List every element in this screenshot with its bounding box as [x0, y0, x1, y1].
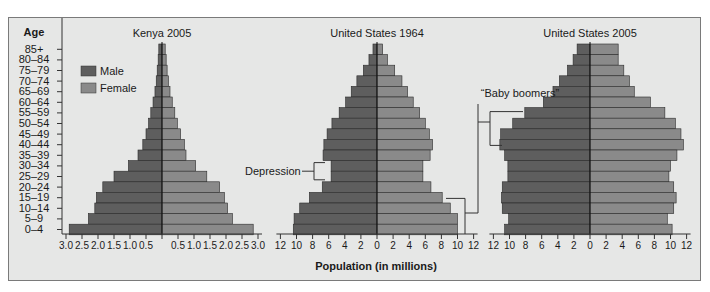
- y-axis-title: Age: [24, 26, 45, 38]
- bar-male: [69, 224, 162, 235]
- legend-swatch-female: [81, 83, 96, 93]
- bar-male: [294, 214, 377, 225]
- x-axis-label: Population (in millions): [315, 260, 437, 272]
- bar-female: [590, 203, 674, 214]
- bar-male: [573, 55, 590, 66]
- bar-male: [509, 214, 590, 225]
- bar-female: [590, 129, 681, 140]
- x-tick-label: 2: [358, 240, 364, 251]
- bar-male: [309, 192, 377, 203]
- bar-male: [322, 182, 377, 193]
- bar-female: [590, 65, 624, 76]
- bar-male: [114, 171, 162, 182]
- bar-male: [153, 97, 162, 108]
- bar-female: [162, 86, 170, 97]
- bar-male: [501, 129, 590, 140]
- x-tick-label: 12: [488, 240, 500, 251]
- bar-female: [162, 224, 253, 235]
- age-label: 0–4: [25, 223, 43, 235]
- bar-male: [351, 86, 377, 97]
- bar-female: [377, 150, 430, 161]
- bar-male: [369, 55, 377, 66]
- bar-male: [95, 203, 162, 214]
- bar-female: [162, 118, 177, 129]
- bar-male: [363, 65, 377, 76]
- bar-female: [162, 129, 181, 140]
- bar-male: [346, 97, 377, 108]
- bar-male: [155, 86, 162, 97]
- x-tick-label: 6: [326, 240, 332, 251]
- bar-male: [332, 118, 377, 129]
- x-tick-label: 2.5: [75, 240, 89, 251]
- x-tick-label: 10: [291, 240, 303, 251]
- x-tick-label: 8: [652, 240, 658, 251]
- depression-label: Depression: [245, 165, 301, 177]
- bar-female: [162, 214, 232, 225]
- bar-female: [590, 192, 676, 203]
- bar-male: [502, 203, 590, 214]
- bar-female: [162, 192, 224, 203]
- x-tick-label: 8: [439, 240, 445, 251]
- bar-female: [590, 44, 618, 55]
- x-tick-label: 4: [406, 240, 412, 251]
- bar-female: [377, 139, 433, 150]
- bar-female: [162, 97, 172, 108]
- bar-female: [162, 76, 168, 87]
- bar-female: [162, 182, 220, 193]
- bar-female: [377, 44, 383, 55]
- bar-female: [377, 224, 458, 235]
- bar-female: [377, 129, 429, 140]
- bar-male: [128, 161, 162, 172]
- bar-male: [324, 139, 377, 150]
- x-tick-label: 0.5: [171, 240, 185, 251]
- bar-male: [577, 44, 590, 55]
- x-tick-label: 12: [681, 240, 693, 251]
- bar-male: [505, 224, 590, 235]
- bar-male: [323, 150, 377, 161]
- bar-female: [377, 86, 408, 97]
- bar-male: [103, 182, 162, 193]
- x-tick-label: 8: [310, 240, 316, 251]
- panel-title: United States 2005: [543, 27, 637, 39]
- bar-female: [377, 214, 458, 225]
- bar-male: [138, 150, 162, 161]
- x-tick-label: 2.0: [91, 240, 105, 251]
- bar-male: [339, 108, 377, 119]
- bar-female: [590, 224, 672, 235]
- bar-male: [88, 214, 162, 225]
- bar-female: [590, 118, 675, 129]
- x-tick-label: 2.5: [235, 240, 249, 251]
- bar-female: [162, 139, 184, 150]
- bar-male: [559, 76, 590, 87]
- bar-male: [149, 118, 162, 129]
- x-tick-label: 4: [342, 240, 348, 251]
- bar-male: [300, 203, 377, 214]
- bar-female: [377, 55, 387, 66]
- pyramid-0: Kenya 20053.02.52.01.51.00.50.51.01.52.0…: [59, 27, 265, 251]
- bar-female: [162, 171, 207, 182]
- bar-female: [590, 76, 629, 87]
- bar-male: [293, 224, 377, 235]
- pyramid-panels: Kenya 20053.02.52.01.51.00.50.51.01.52.0…: [59, 27, 693, 251]
- x-tick-label: 3.0: [59, 240, 73, 251]
- bar-female: [590, 182, 674, 193]
- pyramid-2: United States 200512108642024681012: [488, 27, 693, 251]
- y-axis: Age85+80–8475–7970–7465–6960–6455–5950–5…: [19, 18, 62, 235]
- bar-female: [590, 171, 669, 182]
- baby-boomers-label: “Baby boomers”: [481, 87, 560, 99]
- bar-female: [162, 55, 166, 66]
- bar-male: [502, 182, 590, 193]
- bar-male: [143, 139, 162, 150]
- bar-female: [590, 150, 677, 161]
- bar-male: [373, 44, 377, 55]
- bar-female: [162, 108, 175, 119]
- population-pyramids-chart: Age85+80–8475–7970–7465–6960–6455–5950–5…: [0, 0, 710, 292]
- bar-female: [377, 192, 442, 203]
- pyramid-1: United States 196412108642024681012: [275, 27, 480, 251]
- bar-female: [377, 76, 402, 87]
- bar-male: [96, 192, 162, 203]
- x-tick-label: 6: [423, 240, 429, 251]
- x-tick-label: 1.5: [107, 240, 121, 251]
- x-tick-label: 12: [275, 240, 287, 251]
- bar-female: [590, 55, 618, 66]
